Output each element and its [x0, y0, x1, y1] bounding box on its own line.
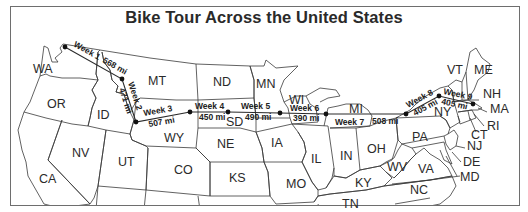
state-label-ne: NE — [217, 137, 234, 151]
us-map: WA OR ID MT ND MN WI MI SD WY NE IA IL I… — [0, 0, 528, 212]
route-stop-5 — [278, 111, 283, 116]
state-label-ca: CA — [39, 172, 57, 186]
state-label-mo: MO — [286, 177, 306, 191]
leg-5-distance: 490 mi — [245, 112, 271, 122]
state-label-tn: TN — [342, 197, 359, 211]
state-label-oh: OH — [367, 142, 386, 156]
state-label-ks: KS — [229, 171, 246, 185]
state-label-il: IL — [311, 152, 321, 166]
state-label-in: IN — [340, 149, 353, 163]
state-label-de: DE — [463, 155, 480, 169]
route-stop-7 — [404, 112, 409, 117]
route-stop-9 — [471, 102, 476, 107]
state-label-ma: MA — [490, 102, 509, 116]
state-label-nc: NC — [410, 183, 428, 197]
state-label-pa: PA — [412, 130, 428, 144]
leg-1-distance: 568 mi — [101, 55, 129, 77]
state-label-mt: MT — [148, 74, 166, 88]
state-border-ct-ri — [458, 110, 476, 124]
leg-3-distance: 507 mi — [148, 115, 176, 129]
state-label-or: OR — [47, 97, 66, 111]
state-border-tn — [314, 176, 460, 210]
route-stop-6 — [324, 112, 329, 117]
state-border-ca — [18, 112, 90, 208]
state-label-sd: SD — [226, 115, 243, 129]
leg-4-distance: 450 mi — [199, 112, 225, 122]
state-label-mn: MN — [256, 77, 275, 91]
leg-6-distance: 390 mi — [293, 113, 319, 123]
state-label-nd: ND — [213, 75, 231, 89]
state-label-id: ID — [97, 108, 110, 122]
state-label-nh: NH — [483, 87, 501, 101]
state-label-wy: WY — [164, 131, 185, 145]
route-stop-8 — [437, 94, 442, 99]
state-label-ut: UT — [118, 155, 135, 169]
route-stop-1 — [120, 77, 125, 82]
state-label-wa: WA — [33, 62, 53, 76]
leg-7-distance: 508 mi — [372, 116, 398, 126]
state-border-nj — [444, 130, 458, 150]
state-label-ri: RI — [487, 119, 500, 133]
route-stop-3 — [188, 110, 193, 115]
leg-5-week: Week 5 — [241, 101, 270, 111]
state-label-md: MD — [460, 170, 479, 184]
state-border-sw — [96, 186, 228, 210]
state-label-nj: NJ — [467, 139, 482, 153]
state-label-nv: NV — [72, 146, 90, 160]
state-label-wv: WV — [387, 160, 408, 174]
leg-1-week: Week 1 — [72, 39, 103, 62]
state-labels: WA OR ID MT ND MN WI MI SD WY NE IA IL I… — [33, 62, 509, 211]
state-label-co: CO — [174, 163, 193, 177]
state-label-vt: VT — [447, 63, 463, 77]
leg-4-week: Week 4 — [195, 101, 224, 111]
leg-6-week: Week 6 — [290, 103, 319, 113]
state-label-ia: IA — [271, 136, 283, 150]
state-label-ky: KY — [355, 176, 372, 190]
state-label-va: VA — [418, 162, 434, 176]
leg-7-week: Week 7 — [335, 117, 364, 127]
state-label-me: ME — [474, 63, 493, 77]
route-stop-4 — [226, 110, 231, 115]
route-stop-2 — [134, 120, 139, 125]
route-stop-start — [63, 45, 68, 50]
